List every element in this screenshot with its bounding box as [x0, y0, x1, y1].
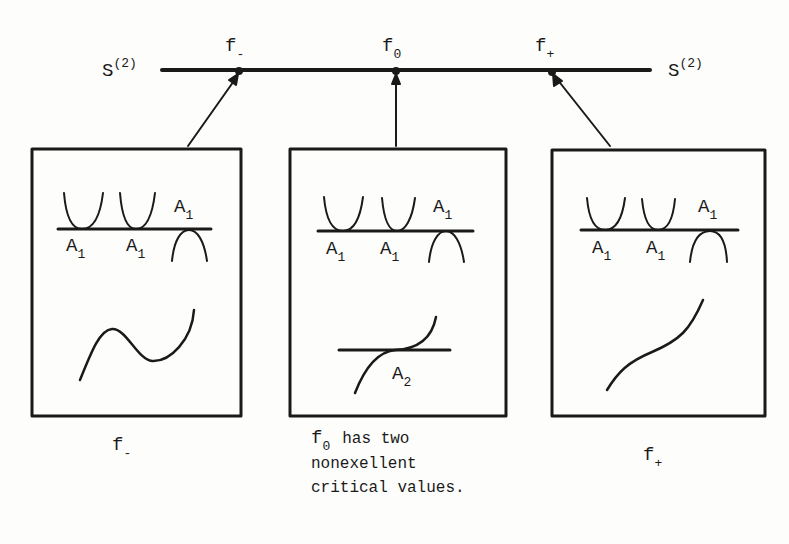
label-base: A	[326, 238, 337, 260]
panel-f-minus-box	[32, 149, 241, 416]
label-sub: 1	[137, 247, 145, 262]
label-base: f	[311, 427, 322, 449]
label-base: A	[126, 235, 137, 257]
label-base: S	[102, 60, 113, 82]
label-sub: 0	[322, 439, 330, 454]
label-base: A	[698, 196, 709, 218]
caption-line-2: nonexellent	[311, 452, 465, 476]
caption-line-1: f0has two	[311, 426, 465, 452]
label-base: A	[174, 196, 185, 218]
label-base: f	[382, 35, 393, 57]
label-base: S	[668, 60, 679, 82]
caption-f-minus: f-	[112, 436, 131, 455]
arrow-to-f-plus	[553, 74, 610, 146]
label-base: f	[112, 434, 123, 456]
axis-right-label: S(2)	[668, 62, 703, 81]
arrow-to-f-minus	[188, 74, 238, 146]
point-f-minus	[235, 67, 243, 75]
label-base: A	[592, 237, 603, 259]
label-sub: +	[654, 456, 662, 471]
label-base: f	[225, 35, 236, 57]
caption-text: has two	[342, 430, 409, 448]
label-base: f	[643, 444, 654, 466]
label-sub: 0	[393, 47, 401, 62]
label-sub: 1	[709, 208, 717, 223]
panel-f-minus-graph	[80, 310, 194, 380]
axis-point-label-f-plus: f+	[535, 37, 554, 56]
panel-f-plus-label-a1-1: A1	[592, 239, 611, 258]
panel-f-zero-label-a1-2: A1	[380, 240, 399, 259]
caption-f-zero: f0has two nonexellent critical values.	[311, 426, 465, 500]
arrow-to-f-zero	[392, 74, 400, 146]
label-sub: 1	[657, 249, 665, 264]
label-sub: 1	[77, 247, 85, 262]
bifurcation-diagram: S(2) S(2) f- f0 f+ A1 A1 A1 A1 A1 A1 A2 …	[0, 0, 789, 544]
caption-line-3: critical values.	[311, 476, 465, 500]
panel-f-minus-label-a1-1: A1	[66, 237, 85, 256]
panel-f-plus-graph	[607, 300, 703, 390]
label-sub: 1	[444, 208, 452, 223]
label-sub: -	[123, 446, 131, 461]
label-sub: 1	[391, 250, 399, 265]
panel-f-plus-box	[552, 150, 765, 416]
panel-f-plus-label-a1-3: A1	[698, 198, 717, 217]
label-sub: -	[236, 47, 244, 62]
panel-f-minus-label-a1-3: A1	[174, 198, 193, 217]
panel-f-zero-label-a2: A2	[392, 365, 411, 384]
label-base: A	[433, 196, 444, 218]
axis-left-label: S(2)	[102, 62, 137, 81]
panel-f-plus-label-a1-2: A1	[646, 239, 665, 258]
label-base: f	[535, 35, 546, 57]
label-sub: 2	[403, 375, 411, 390]
label-sub: +	[546, 47, 554, 62]
label-sub: 1	[337, 250, 345, 265]
panel-f-minus-label-a1-2: A1	[126, 237, 145, 256]
label-sup: (2)	[679, 56, 702, 71]
label-sub: 1	[185, 208, 193, 223]
panel-f-zero-label-a1-3: A1	[433, 198, 452, 217]
label-base: A	[646, 237, 657, 259]
caption-f-plus: f+	[643, 446, 662, 465]
label-sub: 1	[603, 249, 611, 264]
label-base: A	[392, 363, 403, 385]
axis-point-label-f-minus: f-	[225, 37, 244, 56]
label-base: A	[380, 238, 391, 260]
label-sup: (2)	[113, 56, 136, 71]
label-base: A	[66, 235, 77, 257]
axis-point-label-f-zero: f0	[382, 37, 401, 56]
panel-f-zero-label-a1-1: A1	[326, 240, 345, 259]
